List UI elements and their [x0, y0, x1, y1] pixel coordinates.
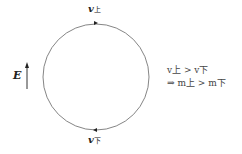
velocity-top-label: v上 [88, 3, 101, 14]
velocity-bottom-label: v下 [88, 134, 101, 145]
relation-line-2: ⇒ m上 > m下 [167, 76, 226, 89]
orbit-circle [43, 24, 149, 130]
field-label: E [13, 69, 21, 82]
field-arrow-head-icon [25, 62, 29, 68]
relation-line-1: v上 > v下 [167, 63, 208, 76]
direction-arrow-bottom-icon [93, 128, 97, 132]
